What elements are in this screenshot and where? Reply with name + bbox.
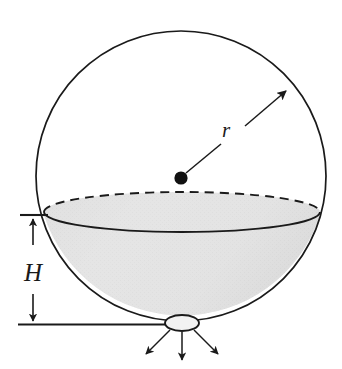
radius-arrow-segment-lower (186, 144, 221, 173)
radius-arrow-segment-upper (245, 91, 286, 126)
sphere-center-dot (174, 171, 187, 184)
drain-hole (165, 315, 199, 331)
outflow-arrow-left (146, 330, 170, 354)
outflow-arrows (146, 330, 218, 360)
hemispherical-tank-diagram: r H (0, 0, 342, 369)
outflow-arrow-right (194, 330, 218, 354)
bowl-shaded-region (44, 192, 320, 315)
figure-container: r H Hemispherical tank draining through … (0, 0, 342, 369)
height-label: H (23, 259, 44, 286)
radius-label: r (222, 118, 231, 142)
